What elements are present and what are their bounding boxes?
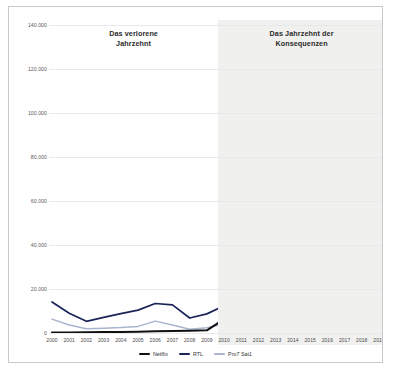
y-axis-tick-label: 100.000 xyxy=(13,110,47,116)
legend-item-netflix[interactable]: Netflix xyxy=(139,351,168,357)
chart-legend: NetflixRTLPro7 Sat1 xyxy=(9,351,382,357)
y-axis-tick-label: 60.000 xyxy=(13,198,47,204)
annotation-lost-decade-line1: Das verlorene xyxy=(49,29,218,39)
y-axis-tick-label: 0 xyxy=(13,330,47,336)
gridline xyxy=(49,157,382,158)
annotation-decade-of-consequences: Das Jahrzehnt der Konsequenzen xyxy=(218,29,383,48)
legend-swatch-icon xyxy=(139,353,150,355)
y-axis-tick-label: 20.000 xyxy=(13,286,47,292)
gridline xyxy=(49,113,382,114)
chart-figure: 020.00040.00060.00080.000100.000120.0001… xyxy=(0,0,393,389)
x-axis-tick-label: 2019 xyxy=(368,337,383,343)
plot-area: 020.00040.00060.00080.000100.000120.0001… xyxy=(9,7,382,362)
y-axis-tick-label: 120.000 xyxy=(13,66,47,72)
gridline xyxy=(49,245,382,246)
gridline xyxy=(49,289,382,290)
annotation-lost-decade-line2: Jahrzehnt xyxy=(49,39,218,49)
gridline xyxy=(49,25,382,26)
chart-frame: 020.00040.00060.00080.000100.000120.0001… xyxy=(8,6,383,363)
annotation-decade-of-consequences-line2: Konsequenzen xyxy=(218,39,383,49)
y-axis-tick-label: 140.000 xyxy=(13,22,47,28)
legend-swatch-icon xyxy=(179,353,190,355)
annotation-lost-decade: Das verlorene Jahrzehnt xyxy=(49,29,218,48)
legend-label: RTL xyxy=(193,351,203,357)
legend-label: Netflix xyxy=(153,351,168,357)
gridline xyxy=(49,201,382,202)
legend-item-pro7-sat1[interactable]: Pro7 Sat1 xyxy=(214,351,252,357)
legend-label: Pro7 Sat1 xyxy=(228,351,252,357)
y-axis-tick-label: 40.000 xyxy=(13,242,47,248)
gridline xyxy=(49,333,382,334)
legend-item-rtl[interactable]: RTL xyxy=(179,351,203,357)
legend-swatch-icon xyxy=(214,353,225,355)
annotation-decade-of-consequences-line1: Das Jahrzehnt der xyxy=(218,29,383,39)
gridline xyxy=(49,69,382,70)
y-axis-tick-label: 80.000 xyxy=(13,154,47,160)
